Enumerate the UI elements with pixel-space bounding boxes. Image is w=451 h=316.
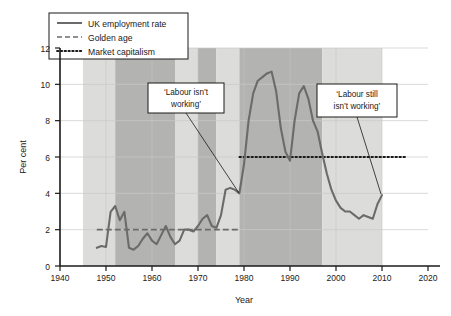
x-tick-label-1990: 1990 bbox=[281, 273, 300, 283]
x-axis-title: Year bbox=[235, 295, 253, 305]
x-tick-label-1960: 1960 bbox=[143, 273, 162, 283]
y-axis-title: Per cent bbox=[18, 140, 28, 174]
x-tick-label-1950: 1950 bbox=[97, 273, 116, 283]
legend: UK employment rate Golden age Market cap… bbox=[49, 13, 188, 59]
y-tick-label-0: 0 bbox=[45, 262, 50, 272]
chart-figure: UK employment rate Golden age Market cap… bbox=[0, 0, 451, 316]
annotation-1-line-1: ‘Labour isn’t bbox=[164, 88, 209, 97]
annotation-2-line-1: ‘Labour still bbox=[336, 90, 378, 99]
x-tick-label-2020: 2020 bbox=[419, 273, 438, 283]
y-tick-label-2: 2 bbox=[45, 225, 50, 235]
y-tick-label-6: 6 bbox=[45, 153, 50, 163]
x-tick-label-1940: 1940 bbox=[51, 273, 70, 283]
chart-svg: UK employment rate Golden age Market cap… bbox=[0, 0, 451, 316]
x-tick-label-1980: 1980 bbox=[235, 273, 254, 283]
annotation-box-2 bbox=[317, 84, 397, 117]
y-tick-label-12: 12 bbox=[41, 44, 51, 54]
x-tick-label-1970: 1970 bbox=[189, 273, 208, 283]
x-tick-label-2010: 2010 bbox=[373, 273, 392, 283]
annotation-1-line-2: working’ bbox=[170, 100, 201, 109]
annotation-2-line-2: isn’t working’ bbox=[334, 102, 381, 111]
legend-label-market-capitalism: Market capitalism bbox=[88, 47, 155, 57]
legend-label-uk-employment-rate: UK employment rate bbox=[88, 19, 167, 29]
y-axis-ticks: 12 10 8 6 4 2 0 bbox=[41, 44, 60, 272]
x-axis-ticks: 1940 1950 1960 1970 1980 1990 2000 2010 … bbox=[51, 266, 438, 283]
y-tick-label-4: 4 bbox=[45, 189, 50, 199]
y-tick-label-10: 10 bbox=[41, 80, 51, 90]
legend-label-golden-age: Golden age bbox=[88, 33, 133, 43]
x-tick-label-2000: 2000 bbox=[327, 273, 346, 283]
y-tick-label-8: 8 bbox=[45, 116, 50, 126]
